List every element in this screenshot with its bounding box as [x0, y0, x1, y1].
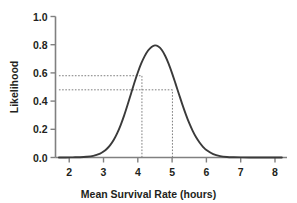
x-axis-tick-label: 2: [66, 166, 72, 178]
x-axis-tick-label: 5: [169, 166, 175, 178]
x-axis-tick-label: 6: [203, 166, 209, 178]
y-axis-tick-label: 1.0: [33, 11, 48, 23]
y-axis-tick-label: 0.8: [33, 39, 48, 51]
x-axis-title: Mean Survival Rate (hours): [0, 188, 297, 200]
annotation-layer: [59, 76, 173, 158]
y-axis-title: Likelihood: [8, 61, 20, 114]
likelihood-curve: [59, 45, 282, 157]
x-axis-tick-label: 3: [101, 166, 107, 178]
y-axis-tick-label: 0.4: [33, 95, 48, 107]
likelihood-chart-figure: 0.00.20.40.60.81.0 2345678 Likelihood Me…: [0, 0, 297, 203]
y-axis-tick-label: 0.6: [33, 67, 48, 79]
y-axis-tick-label: 0.2: [33, 123, 48, 135]
x-axis-tick-label: 8: [272, 166, 278, 178]
x-axis-tick-label: 4: [135, 166, 141, 178]
y-axis-tick-label: 0.0: [33, 152, 48, 164]
x-axis-tick-label: 7: [238, 166, 244, 178]
likelihood-curve-layer: [59, 45, 282, 157]
